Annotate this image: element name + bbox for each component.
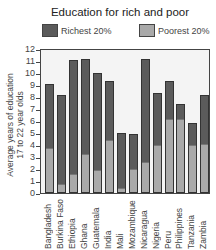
x-tick-label: Ghana	[79, 197, 89, 249]
bar-ghana	[81, 59, 90, 193]
x-tick-label: Mozambique	[127, 197, 137, 249]
bar-segment-poorest	[130, 169, 137, 192]
y-tick-label: 3	[23, 153, 35, 162]
legend-label-richest: Richest 20%	[61, 26, 112, 36]
y-tick-label: 2	[23, 165, 35, 174]
y-tick-label: 7	[23, 105, 35, 114]
bar-mozambique	[129, 134, 138, 193]
bar-zambia	[200, 95, 209, 193]
bar-segment-poorest	[201, 144, 208, 192]
legend-label-poorest: Poorest 20%	[158, 26, 210, 36]
y-tick-label: 6	[23, 117, 35, 126]
bar-nigeria	[153, 93, 162, 193]
x-tick-label: Ethiopia	[67, 197, 77, 249]
x-tick-label: Guatemala	[91, 197, 101, 249]
legend-item-poorest: Poorest 20%	[139, 24, 210, 37]
y-tick-mark	[36, 194, 40, 195]
bar-segment-poorest	[118, 188, 125, 192]
bar-segment-poorest	[142, 162, 149, 192]
chart-title: Education for rich and poor	[12, 6, 216, 18]
bar-peru	[165, 81, 174, 193]
x-tick-label: Philippines	[174, 197, 184, 249]
bar-segment-poorest	[94, 170, 101, 192]
bar-segment-poorest	[82, 154, 89, 192]
bar-segment-poorest	[177, 119, 184, 192]
y-tick-label: 5	[23, 129, 35, 138]
x-tick-label: Peru	[163, 197, 173, 249]
bar-nicaragua	[141, 59, 150, 193]
bar-india	[105, 81, 114, 193]
bar-guatemala	[93, 73, 102, 193]
bar-tanzania	[188, 123, 197, 193]
legend: Richest 20% Poorest 20%	[40, 24, 216, 38]
x-tick-label: Bangladesh	[43, 197, 53, 249]
y-tick-label: 12	[23, 45, 35, 54]
x-tick-label: Zambia	[198, 197, 208, 249]
y-tick-label: 0	[23, 189, 35, 198]
x-tick-label: Burkina Faso	[55, 197, 65, 249]
bar-segment-poorest	[166, 119, 173, 192]
bar-mali	[117, 133, 126, 193]
y-axis-label: Average years of education 17 to 22 year…	[5, 60, 25, 190]
bar-segment-poorest	[189, 145, 196, 192]
y-tick-label: 1	[23, 177, 35, 186]
y-axis-label-line-1: Average years of education	[5, 60, 15, 190]
bar-segment-richest	[118, 134, 125, 192]
plot-area	[40, 49, 210, 194]
y-tick-label: 9	[23, 81, 35, 90]
x-tick-label: Mali	[115, 197, 125, 249]
bar-burkina-faso	[57, 95, 66, 193]
y-tick-label: 10	[23, 69, 35, 78]
bar-segment-poorest	[58, 184, 65, 192]
bar-segment-poorest	[106, 140, 113, 192]
legend-swatch-richest	[42, 24, 58, 37]
bar-bangladesh	[45, 84, 54, 193]
y-tick-label: 11	[23, 57, 35, 66]
legend-item-richest: Richest 20%	[42, 24, 112, 37]
legend-swatch-poorest	[139, 24, 155, 37]
bar-ethiopia	[69, 60, 78, 193]
x-tick-label: India	[103, 197, 113, 249]
bar-segment-richest	[58, 96, 65, 192]
x-tick-label: Tanzania	[186, 197, 196, 249]
y-tick-label: 4	[23, 141, 35, 150]
x-tick-label: Nigeria	[151, 197, 161, 249]
bar-segment-richest	[70, 61, 77, 192]
bar-segment-poorest	[46, 148, 53, 192]
y-tick-label: 8	[23, 93, 35, 102]
bar-segment-poorest	[154, 145, 161, 192]
bar-philippines	[176, 104, 185, 193]
x-tick-label: Nicaragua	[139, 197, 149, 249]
bar-segment-poorest	[70, 174, 77, 192]
